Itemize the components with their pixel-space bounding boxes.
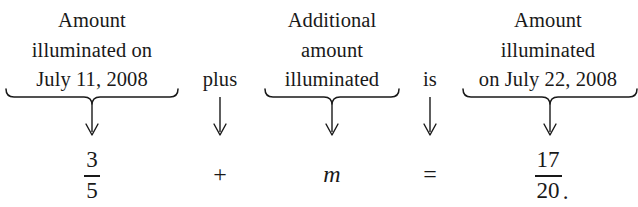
fraction-numerator: 3 — [84, 148, 100, 173]
fraction-three-fifths: 3 5 — [84, 148, 100, 204]
fraction-seventeen-twentieths: 17 20 — [535, 148, 562, 204]
underbrace-icon — [265, 89, 399, 105]
connector-plus-operator — [186, 87, 254, 139]
fraction-bar — [535, 175, 562, 176]
operator-plus: + — [213, 161, 227, 187]
variable-m: m — [323, 161, 340, 187]
fraction-seventeen-twentieths-wrap: 17 20 . — [535, 148, 562, 204]
phrase-right-term: Amount illuminated on July 22, 2008 — [458, 6, 638, 95]
phrase-unknown-term: Additional amount illuminated — [258, 6, 406, 95]
underbrace-icon — [463, 89, 637, 105]
trailing-period: . — [563, 180, 569, 203]
symbol-left-term: 3 5 — [0, 148, 184, 204]
connector-left-term — [0, 87, 184, 139]
connector-right-term — [458, 87, 638, 139]
symbol-unknown-term: m — [258, 162, 406, 186]
phrase-line: amount — [258, 36, 406, 66]
phrase-line: Amount — [458, 6, 638, 36]
symbol-equals-operator: = — [406, 162, 454, 186]
phrase-line: Amount — [0, 6, 184, 36]
connector-unknown-term — [258, 87, 406, 139]
symbol-right-term: 17 20 . — [458, 148, 638, 204]
word-equation-diagram: Amount illuminated on July 11, 2008 3 5 … — [0, 0, 638, 207]
symbol-plus-operator: + — [186, 162, 254, 186]
operator-equals: = — [423, 161, 437, 187]
phrase-left-term: Amount illuminated on July 11, 2008 — [0, 6, 184, 95]
underbrace-icon — [6, 89, 178, 105]
fraction-bar — [84, 175, 100, 176]
phrase-line: illuminated on — [0, 36, 184, 66]
fraction-numerator: 17 — [535, 148, 562, 173]
phrase-line: illuminated — [458, 36, 638, 66]
phrase-line: Additional — [258, 6, 406, 36]
fraction-denominator: 20 — [535, 179, 562, 204]
fraction-denominator: 5 — [84, 179, 100, 204]
connector-equals-operator — [406, 87, 454, 139]
